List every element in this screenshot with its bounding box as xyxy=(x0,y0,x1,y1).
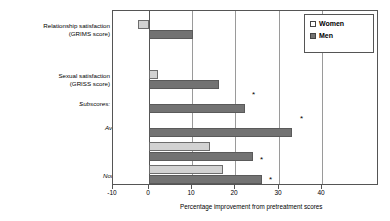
significance-star-avoidance-of-sex: * xyxy=(300,115,303,123)
x-tick-label-40: 40 xyxy=(317,189,324,197)
group-label-column: Relationship satisfaction (GRIMS score) … xyxy=(0,10,112,185)
legend-item-women: Women xyxy=(310,20,369,28)
bar-men-grims-total xyxy=(149,30,193,39)
bar-men-impotence xyxy=(149,104,245,113)
bar-women-griss-total xyxy=(149,70,158,79)
bar-men-infrequency-of-sex xyxy=(149,152,253,161)
bar-men-noncommunication xyxy=(149,175,262,184)
legend-swatch-men-icon xyxy=(310,33,316,39)
legend-label-women: Women xyxy=(319,20,344,28)
bar-chart: Relationship satisfaction (GRIMS score) … xyxy=(0,0,390,221)
significance-star-noncommunication: * xyxy=(269,176,272,184)
group-label-relationship-satisfaction: Relationship satisfaction (GRIMS score) xyxy=(43,22,110,38)
bar-men-avoidance-of-sex xyxy=(149,128,292,137)
x-tick-label-20: 20 xyxy=(230,189,237,197)
legend-label-men: Men xyxy=(319,32,333,40)
bar-women-noncommunication xyxy=(149,165,223,174)
group-label-subscores: Subscores: xyxy=(79,100,110,108)
significance-star-infrequency-of-sex: * xyxy=(260,156,263,164)
x-tick-label-10: 10 xyxy=(187,189,194,197)
significance-star-impotence: * xyxy=(252,91,255,99)
legend-swatch-women-icon xyxy=(310,21,316,27)
bar-men-griss-total xyxy=(149,80,219,89)
bar-women-infrequency-of-sex xyxy=(149,142,210,151)
x-axis-title: Percentage improvement from pretreatment… xyxy=(180,203,322,211)
bar-women-grims-total xyxy=(138,20,149,29)
x-axis: -10 0 10 20 30 40 xyxy=(112,185,378,197)
legend-item-men: Men xyxy=(310,32,369,40)
legend: Women Men xyxy=(304,14,374,53)
x-tick-label--10: -10 xyxy=(107,189,116,197)
group-label-sexual-satisfaction: Sexual satisfaction (GRISS score) xyxy=(58,72,110,88)
gridline-30 xyxy=(279,11,280,184)
x-tick-label-0: 0 xyxy=(146,189,150,197)
x-tick-label-30: 30 xyxy=(274,189,281,197)
